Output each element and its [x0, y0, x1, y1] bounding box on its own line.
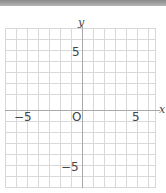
y-tick-neg5: −5 [61, 161, 79, 173]
x-tick-neg5: −5 [14, 111, 32, 123]
origin-label: O [72, 111, 81, 123]
x-axis-label: x [159, 104, 165, 115]
x-tick-5: 5 [132, 111, 140, 123]
y-tick-5: 5 [72, 46, 80, 58]
grid-lines [5, 28, 156, 188]
y-axis-label: y [78, 17, 84, 28]
